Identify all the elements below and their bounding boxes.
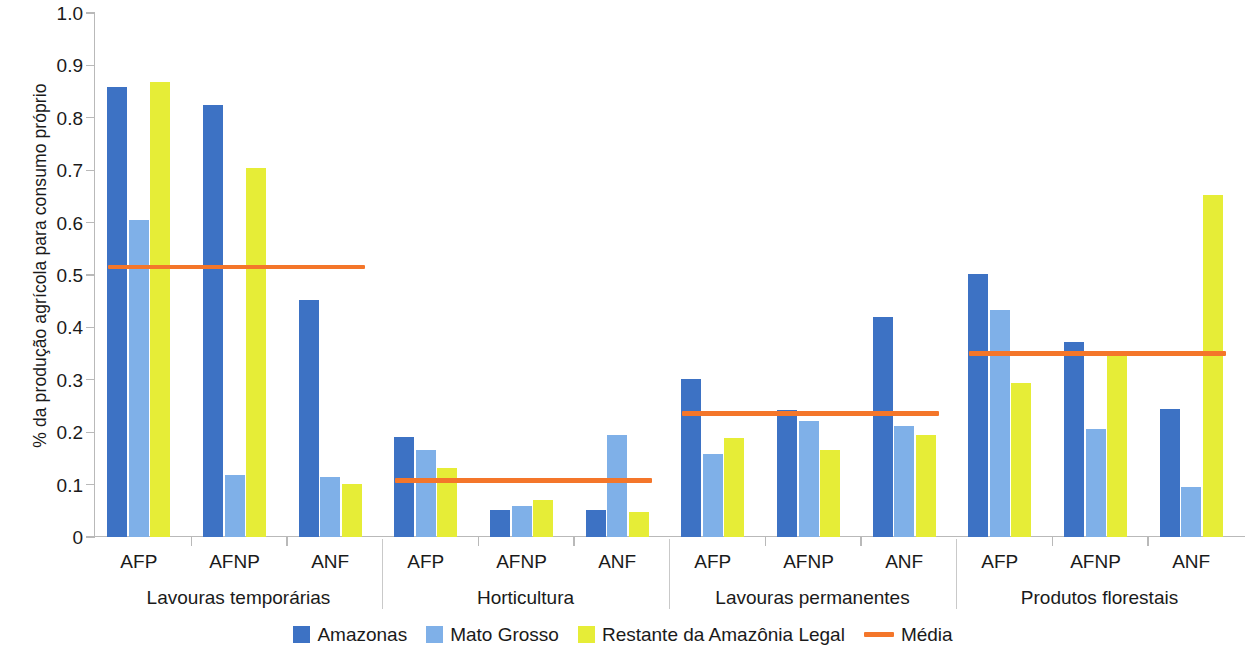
bar-restante-da-amaz-nia-legal [1107,354,1127,537]
bar-restante-da-amaz-nia-legal [533,500,553,537]
bar-restante-da-amaz-nia-legal [150,82,170,537]
x-axis-tick-mark [860,537,861,546]
bar-group [669,13,956,537]
bar-mato-grosso [1181,487,1201,537]
legend-label: Média [901,624,953,646]
bar-cluster [394,13,457,537]
y-axis-tick-label: 0.9 [57,56,83,75]
x-axis-sublabel: AFNP [1041,551,1151,573]
x-axis-sublabel: AFP [84,551,194,573]
bar-cluster [1160,13,1223,537]
x-axis-group-label: Lavouras temporárias [95,587,382,609]
legend-swatch-icon [293,626,310,643]
y-axis-tick-label: 0.7 [57,161,83,180]
bar-amazonas [777,410,797,537]
bar-restante-da-amaz-nia-legal [724,438,744,537]
x-axis-sublabel: AFP [658,551,768,573]
y-axis-tick-label: 0.4 [57,318,83,337]
x-axis-sublabel: ANF [1136,551,1246,573]
y-axis-tick-label: 0.5 [57,266,83,285]
bar-restante-da-amaz-nia-legal [820,450,840,537]
y-axis-tick-label: 0.3 [57,370,83,389]
bar-amazonas [299,300,319,537]
y-axis-tick-label: 0.1 [57,475,83,494]
bar-restante-da-amaz-nia-legal [1203,195,1223,537]
bar-amazonas [1160,409,1180,537]
bar-mato-grosso [607,435,627,537]
mean-line [682,411,939,416]
x-axis-tick-mark [1052,537,1053,546]
legend-item: Restante da Amazônia Legal [578,624,845,646]
mean-line [395,478,652,483]
bar-cluster [299,13,362,537]
legend-label: Restante da Amazônia Legal [602,624,845,646]
bar-amazonas [203,105,223,537]
y-axis-tick-label: 0.6 [57,213,83,232]
x-axis-sublabel: ANF [849,551,959,573]
chart-figure: % da produção agrícola para consumo próp… [0,0,1246,649]
bar-mato-grosso [225,475,245,537]
bar-amazonas [490,510,510,537]
plot-area [95,13,1243,537]
bar-amazonas [1064,342,1084,537]
x-axis-labels: AFPAFNPANFLavouras temporáriasAFPAFNPANF… [95,537,1245,612]
x-axis-group-separator [382,539,383,609]
bar-mato-grosso [512,506,532,537]
bar-group [382,13,669,537]
bar-group [956,13,1243,537]
x-axis-tick-mark [573,537,574,546]
x-axis-tick-mark [191,537,192,546]
bar-restante-da-amaz-nia-legal [246,168,266,537]
bar-mato-grosso [416,450,436,537]
bar-amazonas [968,274,988,537]
bar-cluster [107,13,170,537]
legend-label: Mato Grosso [450,624,559,646]
x-axis-sublabel: AFP [945,551,1055,573]
mean-line [108,265,365,270]
bar-cluster [968,13,1031,537]
x-axis-group-label: Produtos florestais [956,587,1243,609]
bar-restante-da-amaz-nia-legal [916,435,936,537]
mean-line [969,351,1226,356]
x-axis-tick-mark [478,537,479,546]
legend-item: Mato Grosso [426,624,559,646]
legend-label: Amazonas [317,624,407,646]
bar-restante-da-amaz-nia-legal [1011,383,1031,537]
bar-mato-grosso [703,454,723,537]
bar-cluster [681,13,744,537]
x-axis-group-label: Lavouras permanentes [669,587,956,609]
legend-swatch-icon [578,626,595,643]
y-axis-ticks: 00.10.20.30.40.50.60.70.80.91.0 [0,0,95,549]
x-axis-sublabel: AFNP [467,551,577,573]
x-axis-group-separator [669,539,670,609]
x-axis-tick-mark [1147,537,1148,546]
bar-mato-grosso [799,421,819,537]
x-axis-sublabel: ANF [562,551,672,573]
bar-mato-grosso [990,310,1010,537]
bar-cluster [203,13,266,537]
legend-swatch-icon [426,626,443,643]
bar-amazonas [107,87,127,537]
x-axis-sublabel: AFNP [754,551,864,573]
bar-amazonas [586,510,606,537]
x-axis-group-label: Horticultura [382,587,669,609]
x-axis-sublabel: AFP [371,551,481,573]
y-axis-tick-label: 0 [72,528,83,547]
x-axis-tick-mark [286,537,287,546]
bar-amazonas [873,317,893,537]
x-axis-tick-mark [765,537,766,546]
legend-item: Média [864,624,953,646]
x-axis-sublabel: ANF [275,551,385,573]
bar-cluster [777,13,840,537]
chart-legend: AmazonasMato GrossoRestante da Amazônia … [0,620,1246,649]
bar-mato-grosso [1086,429,1106,537]
legend-item: Amazonas [293,624,407,646]
x-axis-sublabel: AFNP [180,551,290,573]
bar-amazonas [394,437,414,537]
legend-swatch-icon [864,632,894,637]
y-axis-tick-label: 0.2 [57,423,83,442]
bar-group [95,13,382,537]
y-axis-tick-label: 0.8 [57,108,83,127]
x-axis-group-separator [956,539,957,609]
bar-cluster [490,13,553,537]
